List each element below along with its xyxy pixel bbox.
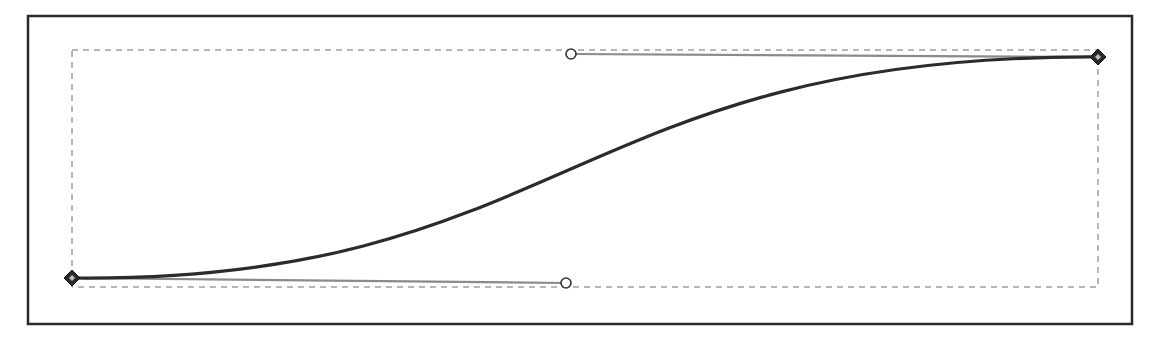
handle-line-end bbox=[571, 54, 1098, 57]
control-handle-top[interactable] bbox=[566, 49, 576, 59]
bezier-curve-path[interactable] bbox=[72, 57, 1098, 278]
bezier-diagram bbox=[0, 0, 1162, 345]
control-handle-bottom[interactable] bbox=[561, 278, 571, 288]
end-node-diamond-icon[interactable] bbox=[1090, 49, 1106, 65]
drawing-canvas[interactable] bbox=[0, 0, 1162, 345]
selection-bounding-box bbox=[72, 50, 1098, 287]
start-node-diamond-icon[interactable] bbox=[64, 270, 80, 286]
handle-line-start bbox=[72, 278, 566, 283]
